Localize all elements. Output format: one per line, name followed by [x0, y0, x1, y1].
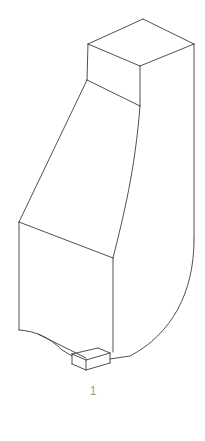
solid-faces-group [19, 19, 194, 370]
outer-curve-right-profile [110, 240, 194, 359]
technical-drawing-canvas: 1 [0, 0, 205, 441]
callout-label-1: 1 [73, 384, 113, 398]
isometric-solid-drawing [0, 0, 205, 441]
